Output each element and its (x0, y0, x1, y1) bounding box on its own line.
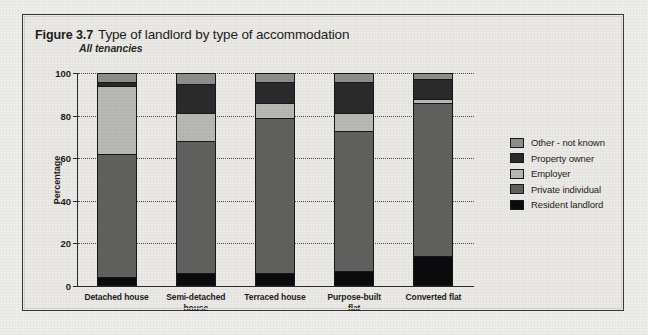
y-axis-line (77, 73, 78, 287)
figure-page: Figure 3.7Type of landlord by type of ac… (0, 0, 648, 335)
legend-item[interactable]: Property owner (510, 151, 605, 167)
bar-segment-employer[interactable] (177, 113, 215, 141)
bar-segment-employer[interactable] (335, 113, 373, 130)
legend-swatch-icon (510, 138, 524, 148)
bar-segment-property-owner[interactable] (335, 82, 373, 114)
bar-segment-private-individual[interactable] (335, 131, 373, 272)
bar-segment-employer[interactable] (98, 86, 136, 154)
x-axis-category-label: Converted flat (394, 292, 473, 303)
figure-frame: Figure 3.7Type of landlord by type of ac… (22, 14, 624, 311)
figure-title: Type of landlord by type of accommodatio… (98, 27, 349, 42)
bar-segment-other-not-known[interactable] (335, 73, 373, 82)
x-axis-category-label: Detached house (77, 292, 156, 303)
x-axis-category-label: Purpose-built flat (315, 292, 394, 313)
bar-semi-detached-house[interactable] (176, 73, 216, 286)
y-tick-label: 40 (41, 195, 71, 206)
bar-detached-house[interactable] (97, 73, 137, 286)
bar-segment-resident-landlord[interactable] (414, 256, 452, 286)
y-tick-label: 0 (41, 281, 71, 292)
figure-title-row: Figure 3.7Type of landlord by type of ac… (35, 25, 349, 43)
y-tick-mark (73, 201, 77, 202)
bar-segment-employer[interactable] (256, 103, 294, 118)
legend-swatch-icon (510, 153, 524, 163)
legend-label: Employer (531, 168, 570, 179)
bar-purpose-built-flat[interactable] (334, 73, 374, 286)
y-tick-mark (73, 73, 77, 74)
bar-segment-property-owner[interactable] (98, 82, 136, 86)
x-axis-category-label: Terraced house (235, 292, 314, 303)
bar-segment-property-owner[interactable] (256, 82, 294, 103)
bar-segment-resident-landlord[interactable] (335, 271, 373, 286)
bar-converted-flat[interactable] (413, 73, 453, 286)
y-tick-label: 20 (41, 238, 71, 249)
y-tick-mark (73, 243, 77, 244)
bar-segment-resident-landlord[interactable] (256, 273, 294, 286)
y-tick-label: 80 (41, 110, 71, 121)
bar-segment-private-individual[interactable] (177, 141, 215, 273)
y-tick-mark (73, 158, 77, 159)
legend-swatch-icon (510, 184, 524, 194)
legend-swatch-icon (510, 200, 524, 210)
x-axis-line (77, 286, 474, 287)
bar-segment-resident-landlord[interactable] (177, 273, 215, 286)
y-tick-mark (73, 116, 77, 117)
y-tick-label: 60 (41, 153, 71, 164)
legend-label: Resident landlord (531, 199, 603, 210)
legend-item[interactable]: Resident landlord (510, 197, 605, 213)
bar-segment-resident-landlord[interactable] (98, 277, 136, 286)
legend-label: Property owner (531, 153, 594, 164)
bar-segment-other-not-known[interactable] (177, 73, 215, 84)
chart-legend: Other - not knownProperty ownerEmployerP… (510, 135, 605, 213)
bar-segment-employer[interactable] (414, 99, 452, 103)
figure-subtitle: All tenancies (79, 42, 142, 54)
bar-segment-property-owner[interactable] (414, 79, 452, 98)
bar-segment-other-not-known[interactable] (98, 73, 136, 82)
legend-label: Other - not known (531, 137, 605, 148)
bar-segment-private-individual[interactable] (98, 154, 136, 278)
bar-terraced-house[interactable] (255, 73, 295, 286)
bar-segment-other-not-known[interactable] (414, 73, 452, 79)
bar-segment-other-not-known[interactable] (256, 73, 294, 82)
legend-swatch-icon (510, 169, 524, 179)
bar-segment-property-owner[interactable] (177, 84, 215, 114)
bar-segment-private-individual[interactable] (414, 103, 452, 256)
legend-item[interactable]: Private individual (510, 182, 605, 198)
legend-item[interactable]: Other - not known (510, 135, 605, 151)
plot-area: Percentage 020406080100Detached houseSem… (77, 73, 473, 286)
y-tick-label: 100 (41, 68, 71, 79)
bar-segment-private-individual[interactable] (256, 118, 294, 273)
legend-label: Private individual (531, 184, 601, 195)
y-tick-mark (73, 286, 77, 287)
figure-number: Figure 3.7 (35, 28, 93, 42)
legend-item[interactable]: Employer (510, 166, 605, 182)
x-axis-category-label: Semi-detached house (156, 292, 235, 313)
